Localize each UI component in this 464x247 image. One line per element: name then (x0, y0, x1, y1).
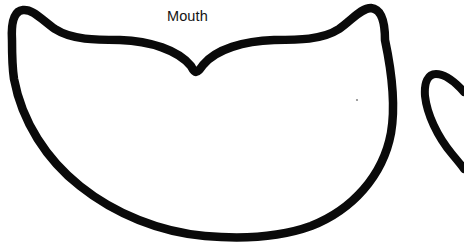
mouth-outline-partial (425, 74, 464, 169)
speck-artifact (356, 99, 358, 101)
mouth-outline (12, 8, 393, 237)
drawing-canvas: Mouth (0, 0, 464, 247)
mouth-drawing (0, 0, 464, 247)
mouth-label: Mouth (167, 7, 208, 25)
